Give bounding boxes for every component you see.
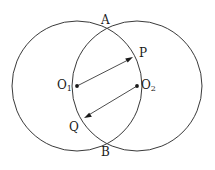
point-label-a: A [101,14,110,26]
point-label-q: Q [69,121,79,133]
vector-o2-to-q [87,86,137,116]
point-label-o2-subscript: 2 [151,84,156,93]
point-label-p: P [139,47,147,59]
point-label-o2: O2 [141,79,156,91]
point-label-o2-base: O [141,78,151,92]
geometry-figure: A B P Q O1 O2 [0,0,215,170]
point-label-o1-subscript: 1 [67,84,72,93]
point-label-o1: O1 [57,79,72,91]
center-dot-o2 [135,84,139,88]
arrowhead-p [125,57,133,63]
center-dot-o1 [75,84,79,88]
point-label-b: B [101,146,110,158]
point-label-o1-base: O [57,78,67,92]
vector-o1-to-p [77,59,130,86]
